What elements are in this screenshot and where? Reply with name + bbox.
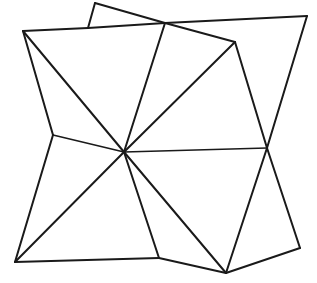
line-drawing-svg [0, 0, 317, 283]
figure-canvas [0, 0, 317, 283]
